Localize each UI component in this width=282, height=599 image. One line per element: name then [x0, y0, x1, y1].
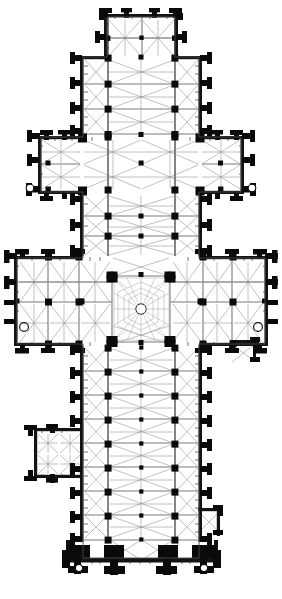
wall-presbytery-n-return [80, 56, 107, 59]
stair-turret-west-nw [75, 564, 82, 571]
cathedral-floor-plan-drawing [0, 0, 282, 599]
stair-turret-nw [20, 323, 29, 332]
stair-turret-e-transept-e [248, 184, 256, 192]
stair-turret-e-transept-w [26, 184, 34, 192]
wall-west-front [66, 558, 218, 563]
stair-turret-west-sw [200, 564, 207, 571]
wall-porch-west [34, 428, 37, 478]
cathedral-plan-figure [0, 0, 282, 599]
wall-presbytery-s-return [175, 56, 202, 59]
stair-turret-ne [254, 323, 263, 332]
wall-porch-south [34, 475, 82, 478]
crossing-oculus [136, 304, 146, 314]
